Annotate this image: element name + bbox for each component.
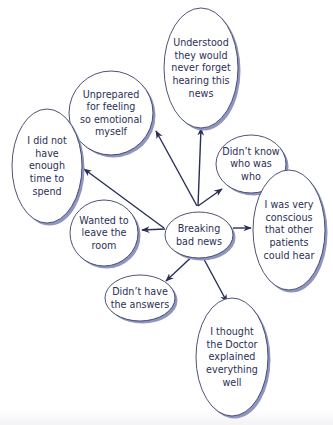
node-no-answers: Didn’t havethe answers: [105, 275, 178, 324]
node-label-line: Didn’t know: [222, 146, 280, 157]
node-label-line: that other: [265, 224, 313, 235]
arrow-to-leave-room: [142, 229, 165, 230]
node-doctor-explained: I thoughtthe Doctorexplainedeverythingwe…: [196, 298, 271, 419]
node-label-line: spend: [32, 186, 61, 197]
node-label-line: I was very: [265, 199, 314, 210]
node-label-line: who was: [230, 158, 272, 169]
node-label-line: everything: [206, 364, 258, 375]
node-label-line: have: [35, 148, 59, 159]
node-leave-room: Wanted toleave theroom: [70, 200, 141, 269]
node-label-line: news: [189, 88, 214, 99]
node-label-line: the Doctor: [207, 339, 258, 350]
node-label-line: for feeling: [87, 101, 136, 112]
node-label-line: time to: [30, 173, 64, 184]
node-label-line: Understood: [173, 37, 229, 48]
node-label-line: room: [92, 240, 117, 251]
arrow-to-didnt-know: [198, 189, 222, 206]
node-label-line: I did not: [27, 135, 67, 146]
arrow-to-understood: [198, 128, 201, 206]
node-label-line: Wanted to: [79, 215, 128, 226]
node-label-line: the answers: [111, 299, 169, 310]
node-label-line: could hear: [264, 250, 315, 261]
node-label-line: hearing this: [172, 75, 229, 86]
node-understood: Understoodthey wouldnever forgethearing …: [164, 8, 241, 131]
node-label-line: leave the: [82, 227, 127, 238]
node-label-line: Breaking: [178, 223, 221, 234]
node-label-line: myself: [95, 126, 128, 137]
node-unprepared: Unpreparedfor feelingso emotionalmyself: [69, 71, 156, 158]
nodes-layer: Breakingbad newsUnderstoodthey wouldneve…: [12, 8, 328, 419]
node-label-line: explained: [209, 351, 256, 362]
node-label-line: patients: [269, 237, 308, 248]
arrow-to-unprepared: [156, 131, 197, 206]
node-label-line: never forget: [171, 62, 231, 73]
node-label-line: they would: [174, 50, 227, 61]
mind-map-diagram: Breakingbad newsUnderstoodthey wouldneve…: [0, 0, 333, 425]
node-label-line: well: [222, 377, 241, 388]
node-label-line: bad news: [176, 236, 222, 247]
node-label-line: Didn’t have: [112, 286, 168, 297]
node-label-line: who: [241, 171, 261, 182]
central-node: Breakingbad news: [165, 212, 236, 261]
node-label-line: conscious: [265, 212, 312, 223]
node-label-line: enough: [29, 160, 65, 171]
node-label-line: Unprepared: [83, 89, 140, 100]
node-label-line: I thought: [210, 326, 254, 337]
node-conscious: I was veryconsciousthat otherpatientscou…: [253, 170, 328, 293]
node-label-line: so emotional: [80, 114, 142, 125]
